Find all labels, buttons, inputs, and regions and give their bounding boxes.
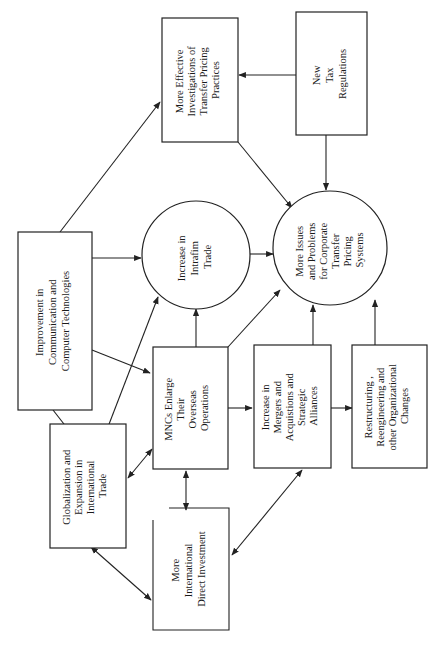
- node-mergers-line-1: Increase in: [260, 384, 271, 431]
- node-mncs-line-1: MNCs Enlarge: [163, 377, 174, 440]
- edge-globalization-mncs: [128, 449, 152, 478]
- edge-mergers-directinvestment: [232, 470, 302, 555]
- node-investigations: More Effective Investigations of Transfe…: [162, 18, 238, 142]
- node-mncs-line-4: Operations: [199, 385, 210, 431]
- node-improvement-line-2: Communication and: [47, 279, 58, 365]
- node-issues-line-6: Systems: [354, 232, 365, 267]
- edge-investigations-issues: [238, 142, 292, 208]
- node-issues-line-5: Pricing: [342, 235, 353, 266]
- node-issues-line-2: and Problems: [306, 223, 317, 280]
- node-restructuring-line-3: other Organizational: [387, 364, 398, 450]
- node-mncs: MNCs Enlarge Their Overseas Operations: [153, 347, 228, 469]
- node-issues-line-1: More Issues: [294, 226, 305, 277]
- edge-improvement-mncs: [92, 350, 150, 373]
- node-improvement: Improvement in Communication and Compute…: [18, 232, 92, 410]
- node-mergers-line-2: Mergers and: [272, 380, 283, 433]
- svg-text:More International: More International Direct Investment: [170, 531, 207, 607]
- node-intrafirm-line-3: Trade: [202, 245, 213, 269]
- node-intrafirm-line-1: Increase in: [176, 235, 187, 282]
- edge-mncs-issues: [228, 290, 280, 347]
- node-improvement-line-3: Computer Technologies: [60, 271, 71, 371]
- flow-diagram: Improvement in Communication and Compute…: [0, 0, 441, 655]
- node-investigations-line-4: Practices: [210, 61, 221, 99]
- node-intrafirm: Increase in Intrafim Trade: [142, 201, 250, 309]
- node-restructuring-line-4: Changes: [399, 388, 410, 424]
- node-tax-line-3: Regulations: [337, 49, 348, 99]
- node-issues-line-3: for Corporate: [318, 223, 329, 280]
- node-direct-investment-line-1: More: [170, 559, 181, 582]
- node-tax-line-2: Tax: [324, 67, 335, 83]
- node-globalization: Globalization and Expansion in Internati…: [50, 424, 126, 548]
- node-mergers-line-3: Acquistions and: [284, 373, 295, 442]
- edge-globalization-intrafirm: [101, 297, 158, 445]
- node-issues: More Issues and Problems for Corporate T…: [273, 191, 387, 305]
- edge-globalization-directinvestment: [91, 547, 151, 600]
- node-mncs-line-3: Overseas: [187, 390, 198, 428]
- edge-improvement-investigations: [60, 102, 160, 232]
- node-improvement-line-1: Improvement in: [34, 288, 45, 356]
- node-issues-line-4: Transfer: [330, 233, 341, 269]
- node-mergers-line-5: Alliances: [308, 386, 319, 426]
- node-direct-investment-line-2: International: [183, 543, 194, 597]
- node-direct-investment: More International Direct Investment: [153, 508, 229, 630]
- node-restructuring-line-2: Reengineering and: [375, 367, 386, 447]
- node-globalization-line-3: International: [85, 460, 96, 514]
- node-tax-line-1: New: [311, 65, 322, 85]
- node-intrafirm-line-2: Intrafim: [189, 241, 200, 275]
- node-globalization-line-4: Trade: [97, 474, 108, 498]
- node-investigations-line-3: Transfer Pricing: [198, 46, 209, 115]
- node-restructuring: Restructuring , Reengineering and other …: [352, 345, 427, 468]
- node-investigations-line-2: Investigations of: [186, 46, 197, 117]
- node-globalization-line-1: Globalization and: [61, 449, 72, 525]
- node-direct-investment-line-3: Direct Investment: [196, 531, 207, 607]
- node-mergers-line-4: Strategic: [296, 388, 307, 426]
- node-investigations-line-1: More Effective: [174, 49, 185, 113]
- node-restructuring-line-1: Restructuring ,: [363, 376, 374, 438]
- node-mergers: Increase in Mergers and Acquistions and …: [254, 345, 331, 468]
- node-globalization-line-2: Expansion in: [73, 459, 84, 515]
- node-tax: New Tax Regulations: [296, 12, 367, 135]
- node-mncs-line-2: Their: [175, 397, 186, 420]
